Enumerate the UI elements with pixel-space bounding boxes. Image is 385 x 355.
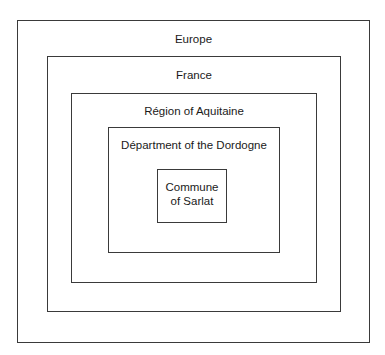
- sarlat-box: Commune of Sarlat: [157, 169, 227, 223]
- sarlat-label-line1: Commune: [158, 180, 226, 194]
- aquitaine-label: Région of Aquitaine: [72, 104, 316, 118]
- dordogne-label: Départment of the Dordogne: [109, 138, 279, 152]
- sarlat-label-line2: of Sarlat: [158, 194, 226, 208]
- europe-label: Europe: [18, 32, 369, 46]
- france-label: France: [48, 68, 340, 82]
- sarlat-label: Commune of Sarlat: [158, 180, 226, 208]
